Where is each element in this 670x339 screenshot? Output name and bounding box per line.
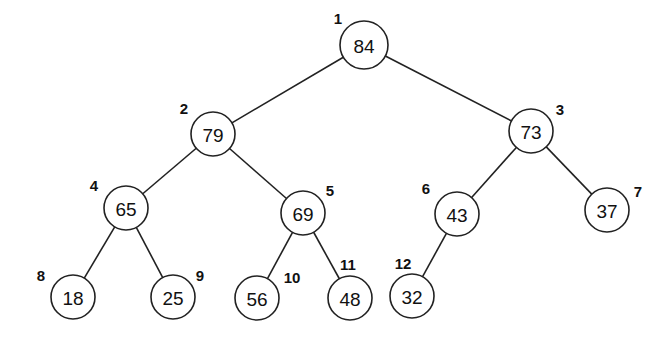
tree-nodes: 841792733654695436377188259561048113212 [37,10,642,321]
node-value: 37 [596,201,617,222]
node-value: 84 [353,36,375,57]
node-index-label: 1 [334,10,342,27]
edge-1-3 [385,56,511,121]
tree-node: 733 [509,101,564,154]
node-index-label: 12 [395,255,412,272]
node-index-label: 11 [340,256,356,273]
edge-4-8 [84,227,114,278]
tree-node: 4811 [328,256,372,321]
node-value: 79 [202,125,223,146]
tree-node: 792 [180,100,235,157]
tree-node: 5610 [235,269,300,321]
node-index-label: 2 [180,100,188,117]
node-value: 65 [115,199,136,220]
tree-node: 259 [151,267,204,320]
tree-node: 841 [334,10,388,70]
node-value: 18 [62,288,83,309]
node-value: 25 [162,288,183,309]
node-index-label: 6 [422,180,430,197]
node-value: 56 [246,289,267,310]
tree-edges [84,56,591,279]
tree-node: 695 [281,182,334,236]
edge-6-12 [423,233,447,276]
node-value: 69 [292,204,313,225]
edge-4-9 [136,227,162,277]
node-index-label: 8 [37,267,45,284]
heap-tree-diagram: 841792733654695436377188259561048113212 [0,0,670,339]
edge-3-7 [546,147,591,194]
node-index-label: 3 [556,101,564,118]
node-index-label: 7 [634,183,642,200]
node-value: 43 [446,205,467,226]
node-index-label: 10 [284,269,301,286]
tree-node: 3212 [390,255,434,319]
node-value: 32 [401,287,422,308]
edge-5-11 [314,232,340,278]
node-index-label: 4 [90,177,99,194]
node-index-label: 5 [326,182,334,199]
tree-node: 436 [422,180,479,237]
tree-node: 377 [585,183,642,233]
tree-node: 654 [90,177,148,231]
node-value: 73 [520,122,541,143]
node-value: 48 [339,289,360,310]
edge-1-2 [232,57,343,123]
edge-2-4 [143,148,196,193]
edge-2-5 [230,149,287,199]
edge-3-6 [472,147,517,197]
node-index-label: 9 [196,267,204,284]
